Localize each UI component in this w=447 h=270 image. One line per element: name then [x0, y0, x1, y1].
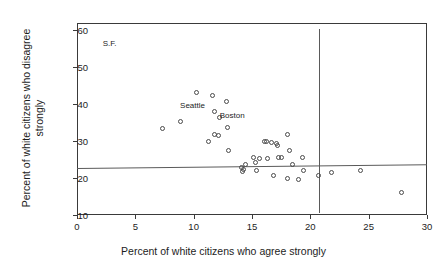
data-point — [254, 168, 259, 173]
x-axis-tick-label: 30 — [422, 221, 433, 232]
x-axis-tick-label: 20 — [305, 221, 316, 232]
x-axis-label: Percent of white citizens who agree stro… — [0, 245, 447, 257]
x-axis-tick — [135, 215, 136, 219]
data-point — [301, 168, 306, 173]
data-point — [358, 168, 363, 173]
point-annotation: Seattle — [180, 100, 205, 109]
data-point — [210, 93, 215, 98]
x-axis-tick — [252, 215, 253, 219]
data-point — [206, 139, 211, 144]
horizontal-reference-line — [77, 165, 427, 170]
data-point — [285, 132, 290, 137]
x-axis-tick-label: 25 — [363, 221, 374, 232]
x-axis-tick — [194, 215, 195, 219]
point-annotation: S.F. — [103, 39, 117, 48]
data-point — [253, 160, 258, 165]
x-axis-tick-label: 5 — [133, 221, 138, 232]
data-point — [271, 173, 276, 178]
data-point — [178, 119, 183, 124]
y-axis-label: Percent of white citizens who disagree s… — [20, 23, 46, 213]
plot-area: S.F.SeattleBoston — [77, 23, 427, 215]
data-point — [264, 139, 269, 144]
data-point — [257, 156, 262, 161]
data-point — [194, 90, 199, 95]
x-axis-tick-label: 15 — [247, 221, 258, 232]
y-axis-tick-label: 40 — [68, 99, 88, 110]
data-point — [290, 162, 295, 167]
point-annotation: Boston — [220, 110, 245, 119]
vertical-reference-line — [319, 29, 320, 213]
data-point — [241, 167, 246, 172]
x-axis-tick-label: 10 — [188, 221, 199, 232]
data-point — [285, 176, 290, 181]
y-axis-tick-label: 30 — [68, 136, 88, 147]
data-point — [225, 125, 230, 130]
scatter-plot-figure: S.F.SeattleBoston Percent of white citiz… — [0, 0, 447, 270]
data-point — [300, 155, 305, 160]
y-axis-tick-label: 50 — [68, 62, 88, 73]
y-axis-tick-label: 20 — [68, 173, 88, 184]
x-axis-tick — [369, 215, 370, 219]
x-axis-tick — [427, 215, 428, 219]
x-axis-tick-label: 0 — [74, 221, 79, 232]
x-axis-tick — [310, 215, 311, 219]
data-point — [212, 109, 217, 114]
data-point — [296, 177, 301, 182]
data-point — [275, 143, 280, 148]
data-point — [329, 170, 334, 175]
data-point — [287, 148, 292, 153]
data-point — [160, 126, 165, 131]
y-axis-tick-label: 60 — [68, 25, 88, 36]
data-point — [224, 99, 229, 104]
data-point — [243, 162, 248, 167]
data-point — [399, 190, 404, 195]
data-point — [216, 133, 221, 138]
data-point — [226, 148, 231, 153]
data-point — [265, 156, 270, 161]
y-axis-tick-label: 10 — [68, 210, 88, 221]
data-point — [279, 155, 284, 160]
data-point — [316, 173, 321, 178]
